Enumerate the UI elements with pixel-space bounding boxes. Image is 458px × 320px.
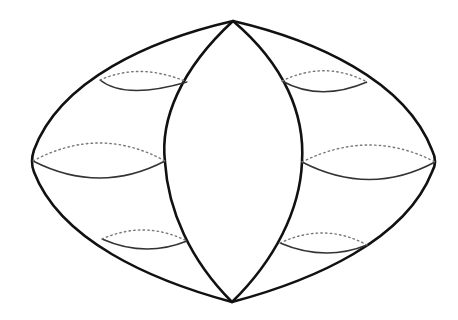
left-lower-arc-front <box>102 239 187 249</box>
inner-lens <box>164 21 302 302</box>
right-upper-arc-front <box>282 81 367 92</box>
left-upper-arc-back <box>100 71 187 82</box>
diagram-canvas <box>0 0 458 320</box>
outer-outline <box>32 21 435 302</box>
left-lower-arc-back <box>102 230 187 241</box>
right-middle-arc-front <box>302 162 435 180</box>
left-middle-arc-front <box>33 161 165 178</box>
left-middle-arc-back <box>33 143 165 161</box>
left-upper-arc-front <box>100 80 187 91</box>
right-lower-arc-front <box>280 243 367 253</box>
right-middle-arc-back <box>302 145 435 162</box>
right-lower-arc-back <box>280 233 367 245</box>
right-upper-arc-back <box>282 71 367 82</box>
